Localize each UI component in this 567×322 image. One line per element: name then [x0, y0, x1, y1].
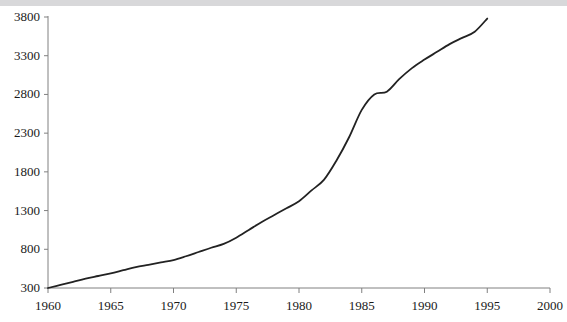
x-tick-label: 1970 [144, 298, 204, 314]
x-tick-label: 1985 [332, 298, 392, 314]
data-line-series-1 [48, 19, 487, 288]
x-tick-label: 2000 [520, 298, 567, 314]
y-tick-label: 300 [0, 280, 40, 296]
chart-canvas [0, 0, 567, 322]
line-chart: 300800130018002300280033003800 196019651… [0, 0, 567, 322]
y-tick-label: 1800 [0, 164, 40, 180]
x-tick-label: 1990 [395, 298, 455, 314]
x-tick-label: 1960 [18, 298, 78, 314]
y-tick-label: 2300 [0, 125, 40, 141]
y-tick-label: 1300 [0, 203, 40, 219]
y-tick-label: 2800 [0, 86, 40, 102]
x-tick-label: 1965 [81, 298, 141, 314]
x-tick-label: 1995 [457, 298, 517, 314]
y-tick-label: 3800 [0, 9, 40, 25]
x-tick-label: 1975 [206, 298, 266, 314]
y-tick-label: 800 [0, 241, 40, 257]
y-tick-label: 3300 [0, 48, 40, 64]
x-tick-label: 1980 [269, 298, 329, 314]
